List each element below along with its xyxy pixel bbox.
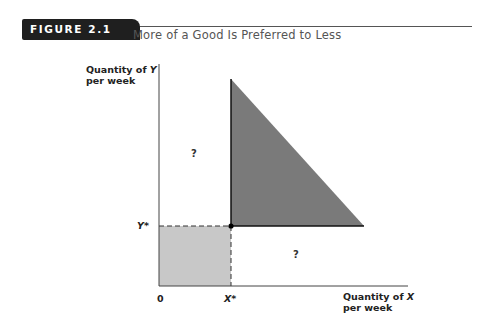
x-axis-label-var: X [407,291,414,302]
y-axis-label-var: Y [150,64,157,75]
y-star-label: Y* [137,220,149,231]
y-axis-label-text: Quantity of [86,64,150,75]
x-axis-label: Quantity of X per week [343,291,414,313]
y-axis-label: Quantity of Y per week [86,64,157,86]
lower-right-question-mark: ? [293,249,299,260]
x-star-label: X* [224,293,236,304]
less-preferred-region [159,226,231,286]
preferred-region [231,79,364,226]
x-axis-label-text: Quantity of [343,291,407,302]
y-axis-label-unit: per week [86,75,135,86]
x-star-text: X* [224,293,236,304]
y-star-text: Y* [137,220,149,231]
origin-label: 0 [157,293,164,304]
x-axis-label-unit: per week [343,302,392,313]
bundle-point [228,223,233,228]
diagram-canvas [0,0,477,320]
upper-left-question-mark: ? [191,148,197,159]
